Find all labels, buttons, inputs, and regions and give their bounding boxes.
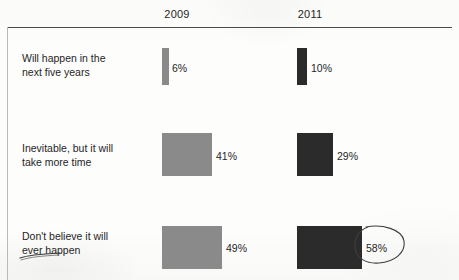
column-header-2009: 2009 [164,8,189,20]
bar-value-2011-inevitable: 29% [337,150,358,162]
bar-value-2009-will-happen: 6% [172,62,187,74]
bar-value-2011-will-happen: 10% [311,62,332,74]
header-divider-rule [7,27,452,28]
bar-2009-never-happen [162,226,222,269]
survey-bar-chart: 2009 2011 Will happen in the next five y… [0,0,459,280]
bar-2009-will-happen [162,48,169,85]
bar-2011-inevitable [297,133,333,176]
bar-value-2009-never-happen: 49% [226,242,247,254]
column-header-2011: 2011 [298,8,322,20]
row-label: Will happen in the next five years [22,52,157,79]
row-label: Inevitable, but it will take more time [22,142,157,169]
bar-2011-will-happen [297,48,307,85]
bar-value-2011-never-happen: 58% [366,242,387,254]
bar-2011-never-happen [297,226,362,269]
bar-value-2009-inevitable: 41% [216,150,237,162]
bar-2009-inevitable [162,133,212,176]
row-label: Don't believe it will ever happen [22,230,157,257]
left-border-rule [7,27,8,280]
